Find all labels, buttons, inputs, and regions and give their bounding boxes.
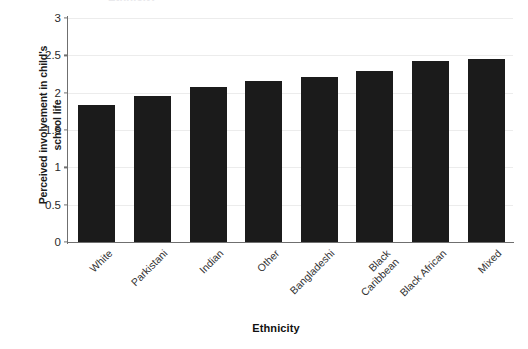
x-axis-tick-labels: WhiteParkistaniIndianOtherBangladeshiBla… [68,243,513,318]
bar [134,96,171,242]
y-tick-label: 1.5 [45,124,61,136]
y-tick-label: 1 [55,161,61,173]
bar-chart-figure: Ethnicity involvement Perceived involvem… [0,0,528,349]
bar [412,61,449,242]
y-tick-label: 0.5 [45,199,61,211]
bar [245,81,282,242]
bar [356,71,393,242]
plot-area: 00.511.522.53 [68,18,513,242]
bar [78,105,115,242]
bar [190,87,227,242]
bar [468,59,505,242]
y-tick-label: 2.5 [45,49,61,61]
x-axis-title: Ethnicity [0,322,528,334]
bar [301,77,338,242]
cropped-text-remnant: Ethnicity [108,0,156,1]
y-axis-title-container: Perceived involvement in child's school … [0,0,40,250]
y-tick-label: 3 [55,12,61,24]
y-tick-label: 2 [55,87,61,99]
y-tick-label: 0 [55,236,61,248]
bar-series [68,18,513,242]
